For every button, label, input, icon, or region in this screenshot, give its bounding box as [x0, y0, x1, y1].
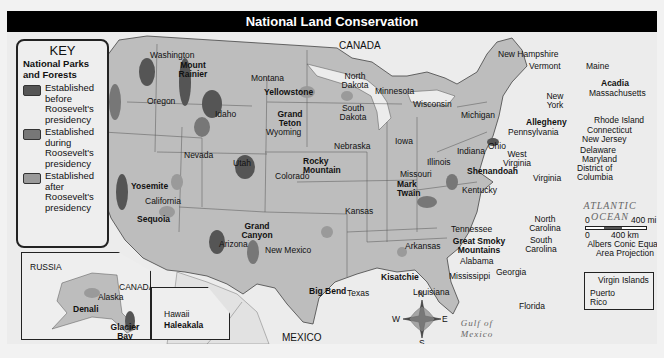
mexico-label: MEXICO — [282, 332, 321, 343]
swatch-during — [23, 129, 41, 140]
key-item-after: Established after Roosevelt's presidency — [23, 171, 102, 213]
park-kisatchie: Kisatchie — [381, 273, 419, 282]
state-illinois: Illinois — [427, 158, 451, 167]
puerto-rico-inset: Virgin Islands Puerto Rico — [584, 272, 654, 310]
state-nebraska: Nebraska — [334, 142, 370, 151]
park-denali: Denali — [73, 305, 99, 314]
state-oregon: Oregon — [147, 97, 175, 106]
state-hawaii: Hawaii — [164, 310, 190, 319]
scale-mi-zero: 0 — [585, 216, 590, 225]
projection-label: Albers Conic Equal-Area Projection — [585, 240, 657, 258]
park-glacier-bay: Glacier Bay — [107, 323, 143, 341]
state-new-mexico: New Mexico — [265, 246, 311, 255]
state-district-of-columbia: District of Columbia — [577, 164, 627, 182]
park-grand-canyon: Grand Canyon — [239, 222, 275, 240]
park-sequoia: Sequoia — [137, 215, 170, 224]
scale-mi-value: 400 mi — [631, 216, 657, 225]
compass-south: S — [419, 339, 425, 344]
state-alabama-label: Alabama — [460, 257, 494, 266]
state-utah: Utah — [233, 159, 251, 168]
state-texas: Texas — [347, 289, 369, 298]
key-item-label: Established after Roosevelt's presidency — [45, 171, 102, 213]
state-georgia: Georgia — [496, 268, 526, 277]
park-yellowstone: Yellowstone — [264, 88, 313, 97]
state-idaho: Idaho — [215, 110, 236, 119]
key-item-before: Established before Roosevelt's presidenc… — [23, 83, 102, 125]
state-nevada: Nevada — [184, 151, 213, 160]
key-subtitle: National Parks and Forests — [23, 58, 102, 80]
state-north-carolina: North Carolina — [525, 215, 565, 233]
state-minnesota: Minnesota — [375, 87, 414, 96]
map-key: KEY National Parks and Forests Establish… — [16, 39, 109, 248]
compass-star-icon — [397, 294, 447, 344]
park-grand-teton: Grand Teton — [275, 110, 305, 128]
state-kentucky: Kentucky — [462, 186, 497, 195]
state-missouri: Missouri — [400, 170, 432, 179]
canada-inset-label: CANADA — [119, 283, 154, 292]
state-montana: Montana — [251, 74, 284, 83]
state-north-dakota: North Dakota — [337, 72, 373, 90]
state-florida: Florida — [519, 302, 545, 311]
gulf-of-mexico-label: Gulf of Mexico — [457, 318, 497, 340]
park-yosemite: Yosemite — [131, 182, 168, 191]
park-mount-rainier: Mount Rainier — [173, 61, 213, 79]
state-massachusetts: Massachusetts — [589, 89, 646, 98]
state-maine: Maine — [586, 62, 609, 71]
state-new-jersey: New Jersey — [582, 135, 626, 144]
state-new-hampshire: New Hampshire — [498, 50, 558, 59]
compass-east: E — [442, 315, 448, 324]
state-wisconsin: Wisconsin — [413, 100, 452, 109]
state-california: California — [145, 197, 181, 206]
state-pennsylvania: Pennsylvania — [508, 128, 559, 137]
park-acadia: Acadia — [601, 79, 629, 88]
state-indiana: Indiana — [457, 147, 485, 156]
key-item-label: Established during Roosevelt's presidenc… — [45, 127, 102, 169]
state-arkansas: Arkansas — [405, 242, 440, 251]
state-south-dakota: South Dakota — [335, 104, 371, 122]
park-great-smoky-mountains: Great Smoky Mountains — [443, 237, 515, 255]
park-allegheny: Allegheny — [526, 118, 567, 127]
state-wyoming: Wyoming — [266, 128, 301, 137]
state-iowa: Iowa — [395, 137, 413, 146]
park-haleakala: Haleakala — [164, 321, 203, 330]
swatch-after — [23, 173, 41, 184]
state-arizona: Arizona — [219, 240, 248, 249]
park-big-bend: Big Bend — [309, 287, 346, 296]
state-virgin-islands: Virgin Islands — [598, 276, 649, 285]
state-puerto-rico: Puerto Rico — [590, 289, 616, 307]
state-new-york: New York — [542, 92, 568, 110]
state-rhode-island: Rhode Island — [594, 116, 644, 125]
state-washington: Washington — [150, 51, 195, 60]
map-scale: 0 400 mi 0 400 km Albers Conic Equal-Are… — [585, 216, 657, 258]
key-item-label: Established before Roosevelt's presidenc… — [45, 83, 102, 125]
key-item-during: Established during Roosevelt's presidenc… — [23, 127, 102, 169]
state-alaska: Alaska — [98, 293, 124, 302]
map-title: National Land Conservation — [7, 11, 657, 32]
park-rocky-mountain: Rocky Mountain — [303, 157, 349, 175]
compass-rose: N S E W — [397, 294, 447, 344]
state-mississippi: Mississippi — [449, 272, 490, 281]
state-vermont: Vermont — [529, 62, 561, 71]
russia-label: RUSSIA — [30, 263, 62, 272]
state-tennessee-label: Tennessee — [451, 225, 492, 234]
key-title: KEY — [23, 44, 102, 58]
compass-north: N — [418, 290, 424, 299]
park-shenandoah: Shenandoah — [467, 167, 518, 176]
map-area: KEY National Parks and Forests Establish… — [7, 32, 657, 344]
canada-label: CANADA — [339, 40, 381, 51]
park-mark-twain: Mark Twain — [397, 180, 427, 198]
state-virginia: Virginia — [533, 174, 561, 183]
state-south-carolina: South Carolina — [521, 236, 561, 254]
compass-west: W — [392, 315, 400, 324]
swatch-before — [23, 85, 41, 96]
alaska-inset: RUSSIA CANADA Alaska Denali Glacier Bay — [21, 252, 151, 340]
state-kansas-label: Kansas — [345, 207, 373, 216]
state-michigan: Michigan — [461, 111, 495, 120]
